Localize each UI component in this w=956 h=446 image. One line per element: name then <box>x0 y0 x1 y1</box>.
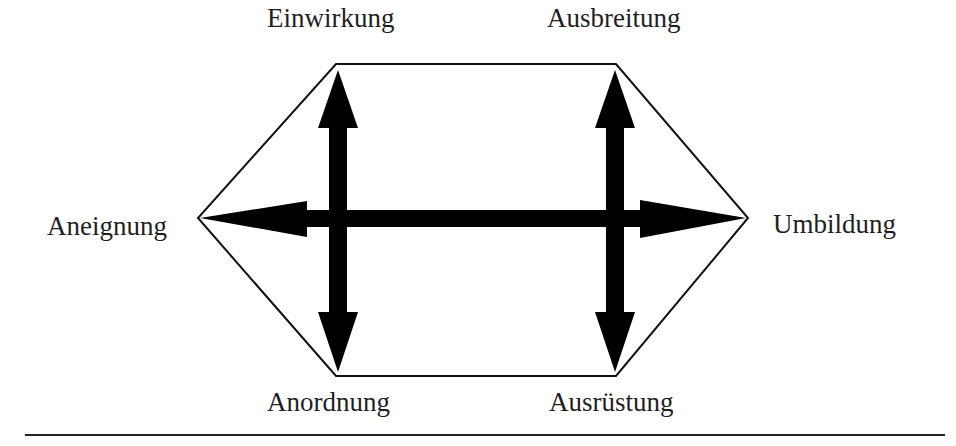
node-label-aneignung: Aneignung <box>47 211 167 241</box>
node-label-anordnung: Anordnung <box>267 387 390 417</box>
node-label-ausruestung: Ausrüstung <box>549 387 674 417</box>
node-label-umbildung: Umbildung <box>773 209 896 239</box>
hexagon-diagram: Einwirkung Ausbreitung Aneignung Umbildu… <box>0 0 956 446</box>
bottom-divider <box>25 434 945 436</box>
node-label-einwirkung: Einwirkung <box>267 3 395 33</box>
horizontal-double-arrow-icon <box>200 200 746 238</box>
node-label-ausbreitung: Ausbreitung <box>547 3 680 33</box>
